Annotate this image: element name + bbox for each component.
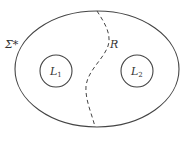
language-l1-label: L1 xyxy=(49,65,62,79)
language-l1-subscript: 1 xyxy=(57,71,61,79)
diagram-canvas: Σ* R L1 L2 xyxy=(0,0,188,141)
language-l2-subscript: 2 xyxy=(138,71,142,79)
separator-label: R xyxy=(109,38,118,51)
language-l1-main: L xyxy=(49,65,57,78)
separator-curve-r xyxy=(86,11,109,127)
language-l2-main: L xyxy=(130,65,138,78)
universe-label: Σ* xyxy=(4,38,19,51)
language-l2-label: L2 xyxy=(130,65,143,79)
